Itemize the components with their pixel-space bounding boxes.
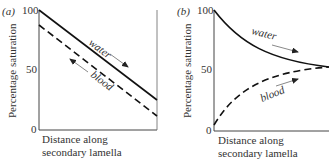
blood-arrow-b — [276, 79, 298, 86]
blood-label-b: blood — [258, 83, 286, 104]
ytick-50-a: 50 — [26, 63, 38, 75]
y-axis-label-b: Percentage saturation — [181, 23, 193, 118]
y-axis-label-a: Percentage saturation — [6, 23, 18, 118]
chart-a: (a) 100 50 0 Percentage saturation water… — [2, 4, 157, 158]
panel-label-b: (b) — [177, 5, 190, 18]
x-axis-label-a-line2: secondary lamella — [42, 146, 122, 158]
blood-label-a: blood — [89, 68, 117, 93]
water-arrow-a — [110, 54, 128, 67]
ytick-100-b: 100 — [197, 4, 214, 16]
panel-label-a: (a) — [2, 5, 15, 18]
ytick-0-b: 0 — [206, 124, 212, 136]
ytick-0-a: 0 — [31, 123, 37, 135]
ytick-50-b: 50 — [201, 63, 213, 75]
ytick-100-a: 100 — [22, 4, 39, 16]
figure: (a) 100 50 0 Percentage saturation water… — [0, 0, 329, 160]
x-axis-label-b-line2: secondary lamella — [218, 147, 298, 159]
water-line-a — [39, 10, 157, 100]
chart-b: (b) 100 50 0 Percentage saturation water… — [177, 4, 329, 159]
water-arrow-b — [272, 45, 298, 52]
x-axis-label-a-line1: Distance along — [42, 133, 108, 145]
x-axis-label-b-line1: Distance along — [218, 134, 284, 146]
water-label-b: water — [251, 24, 279, 42]
